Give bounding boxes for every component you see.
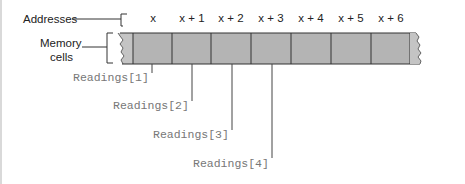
address-label-6: x + 6 xyxy=(371,12,411,24)
readings-label-1: Readings[1] xyxy=(73,71,149,84)
address-label-2: x + 2 xyxy=(211,12,251,24)
address-label-3: x + 3 xyxy=(251,12,291,24)
cells-label: cells xyxy=(50,51,73,64)
memory-cells-row xyxy=(133,33,410,64)
left-torn-edge xyxy=(118,33,133,64)
address-label-0: x xyxy=(133,12,173,24)
addresses-bracket xyxy=(121,14,127,26)
readings-label-2: Readings[2] xyxy=(113,99,189,112)
addresses-label: Addresses xyxy=(23,13,77,26)
memory-label: Memory xyxy=(40,37,82,50)
address-label-5: x + 5 xyxy=(331,12,371,24)
address-label-1: x + 1 xyxy=(172,12,212,24)
readings-label-3: Readings[3] xyxy=(153,128,229,141)
readings-label-4: Readings[4] xyxy=(193,157,269,170)
memory-bracket xyxy=(107,33,113,63)
address-label-4: x + 4 xyxy=(291,12,331,24)
